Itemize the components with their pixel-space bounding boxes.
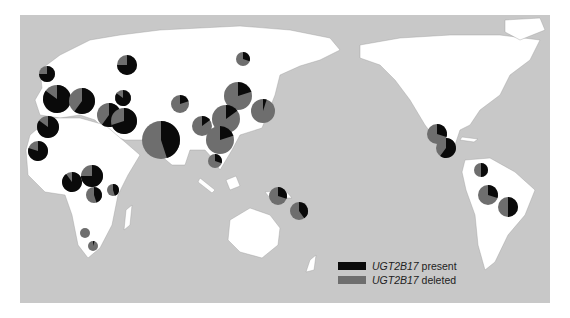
pie-marker: [43, 85, 71, 113]
pie-marker: [474, 163, 488, 177]
pie-marker: [88, 241, 98, 251]
legend-state: deleted: [422, 274, 456, 286]
pie-marker: [107, 184, 119, 196]
pie-marker: [290, 202, 308, 220]
pie-marker: [251, 99, 275, 123]
pie-marker: [478, 185, 498, 205]
legend-gene: UGT2B17: [372, 274, 419, 286]
pie-marker: [436, 138, 456, 158]
pie-marker: [69, 88, 95, 114]
pie-marker: [142, 121, 180, 159]
legend-swatch-deleted: [338, 276, 366, 284]
pie-marker: [206, 126, 234, 154]
pie-marker: [80, 228, 90, 238]
pie-marker: [236, 52, 250, 66]
legend-item-present: UGT2B17 present: [338, 260, 457, 272]
legend-state: present: [422, 260, 457, 272]
pie-marker: [115, 90, 131, 106]
pie-marker: [39, 66, 55, 82]
pie-marker: [28, 141, 48, 161]
pie-marker: [81, 165, 103, 187]
pie-marker: [62, 172, 82, 192]
legend-swatch-present: [338, 262, 366, 270]
pie-marker: [117, 55, 137, 75]
pie-marker: [208, 154, 222, 168]
world-map: [0, 0, 570, 318]
pie-marker: [498, 197, 518, 217]
pie-marker: [86, 187, 102, 203]
pie-marker: [111, 108, 137, 134]
legend: UGT2B17 present UGT2B17 deleted: [338, 260, 457, 288]
pie-marker: [37, 116, 59, 138]
pie-marker: [171, 95, 189, 113]
pie-marker: [269, 187, 287, 205]
legend-gene: UGT2B17: [372, 260, 419, 272]
legend-item-deleted: UGT2B17 deleted: [338, 274, 457, 286]
